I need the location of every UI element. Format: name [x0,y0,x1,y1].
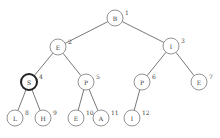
node-label: P [140,79,144,86]
tree-edge [122,22,164,43]
binary-tree-diagram: B1E2I3S4P5P6E7L8H9E10A11I12 [0,0,220,138]
node-label: L [13,115,17,122]
tree-edge [78,90,84,111]
tree-edges [18,22,194,111]
tree-edge [34,53,53,76]
tree-node: I3 [163,37,185,54]
node-label: B [113,15,118,22]
tree-nodes: B1E2I3S4P5P6E7L8H9E10A11I12 [7,9,213,126]
node-label: S [27,79,31,86]
node-index: 5 [96,73,100,80]
node-label: E [74,115,78,122]
tree-node: S4 [21,73,43,90]
tree-node: A11 [93,109,119,126]
tree-node: E2 [50,38,72,55]
tree-edge [134,90,140,111]
tree-node: H9 [35,109,57,126]
node-index: 7 [209,73,213,80]
tree-node: I12 [124,109,150,126]
tree-edge [18,89,26,110]
tree-node: P5 [78,73,100,90]
node-label: A [98,115,104,122]
node-index: 6 [152,73,156,80]
tree-node: E7 [191,73,213,90]
node-index: 3 [181,37,185,44]
tree-edge [147,52,166,76]
node-index: 8 [25,109,29,116]
node-index: 12 [142,109,150,116]
tree-edge [63,53,81,76]
node-label: H [40,115,45,122]
node-label: E [56,44,60,51]
tree-node: P6 [134,73,156,90]
tree-node: L8 [7,109,29,126]
tree-edge [32,89,40,110]
node-label: E [197,79,201,86]
node-index: 4 [39,73,43,80]
node-index: 1 [125,9,129,16]
node-index: 11 [111,109,119,116]
node-index: 10 [86,109,94,116]
node-label: P [84,79,88,86]
node-index: 2 [68,38,72,45]
tree-node: E10 [68,109,94,126]
tree-edge [89,89,98,110]
tree-edge [176,52,194,75]
node-index: 9 [53,109,57,116]
